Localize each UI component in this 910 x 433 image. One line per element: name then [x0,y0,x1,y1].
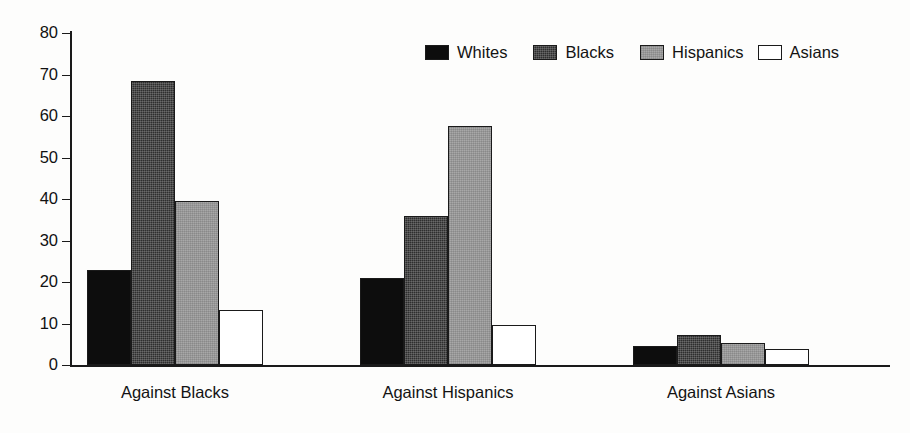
bar-asians-against-asians [765,349,809,365]
legend-item-hispanics: Hispanics [640,44,744,61]
bar-blacks-against-hispanics [404,216,448,365]
legend-item-asians: Asians [758,44,840,61]
legend-swatch-asians-icon [758,45,782,60]
y-axis-tick-label: 10 [14,315,58,331]
bar-whites-against-blacks [87,270,131,365]
legend-label: Hispanics [672,44,744,61]
y-axis-tick-label: 70 [14,66,58,82]
bar-asians-against-blacks [219,310,263,365]
bar-chart: 80706050403020100 Against BlacksAgainst … [0,0,910,433]
x-axis-line [70,365,890,367]
legend-item-whites: Whites [425,44,507,61]
bar-hispanics-against-asians [721,343,765,365]
bar-blacks-against-blacks [131,81,175,365]
y-axis-tick [62,365,71,366]
y-axis-tick-label: 80 [14,24,58,40]
legend-swatch-blacks-icon [533,45,557,60]
y-axis-tick-label: 50 [14,149,58,165]
bar-hispanics-against-blacks [175,201,219,365]
x-axis-label-2: Against Asians [601,383,841,401]
bar-blacks-against-asians [677,335,721,365]
y-axis-tick-label: 60 [14,107,58,123]
x-axis-label-1: Against Hispanics [328,383,568,401]
legend-swatch-hispanics-icon [640,45,664,60]
y-axis-tick-label: 20 [14,273,58,289]
y-axis-tick-label: 0 [14,356,58,372]
bar-whites-against-asians [633,346,677,366]
bar-hispanics-against-hispanics [448,126,492,365]
legend-item-blacks: Blacks [533,44,614,61]
legend-label: Asians [790,44,840,61]
x-axis-label-0: Against Blacks [55,383,295,401]
chart-legend: WhitesBlacksHispanicsAsians [425,44,839,61]
y-axis-tick-label: 30 [14,232,58,248]
y-axis-tick-label: 40 [14,190,58,206]
legend-label: Whites [457,44,507,61]
legend-label: Blacks [565,44,614,61]
legend-swatch-whites-icon [425,45,449,60]
bar-whites-against-hispanics [360,278,404,365]
bar-asians-against-hispanics [492,325,536,365]
plot-area [70,33,890,365]
